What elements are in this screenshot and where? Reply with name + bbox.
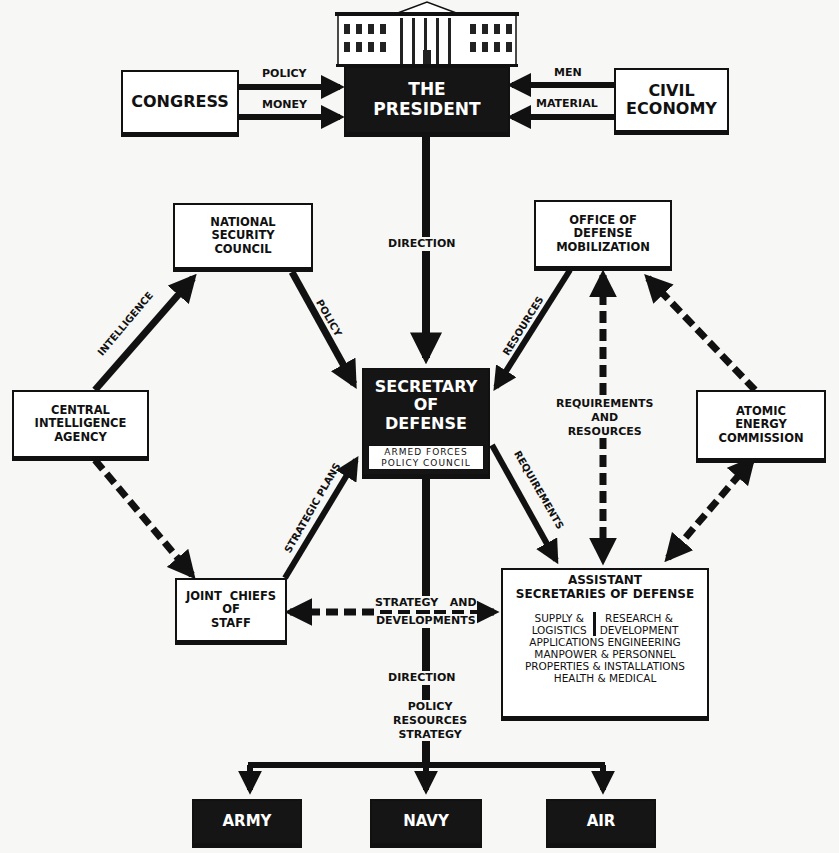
policy-nsc-arrow	[292, 272, 354, 384]
asd-left-col: SUPPLY & LOGISTICS	[532, 612, 596, 636]
asd-box: ASSISTANT SECRETARIES OF DEFENSE SUPPLY …	[501, 568, 709, 718]
prs-line-2: RESOURCES	[393, 714, 467, 728]
cia-jcs-arrow	[95, 460, 192, 575]
afpc-line-2: POLICY COUNCIL	[369, 458, 483, 468]
jcs-line-2: OF	[222, 603, 240, 616]
odm-line-3: MOBILIZATION	[556, 241, 650, 254]
aec-asd-arrow	[668, 460, 752, 558]
secdef-line-3: DEFENSE	[385, 415, 467, 433]
material-label: MATERIAL	[536, 97, 598, 111]
nsc-line-3: COUNCIL	[214, 243, 271, 256]
strategic-plans-arrow	[285, 460, 356, 578]
req-and-res-line-2: AND	[556, 411, 653, 425]
req-and-res-line-1: REQUIREMENTS	[556, 397, 653, 411]
asd-row-2: MANPOWER & PERSONNEL	[534, 648, 675, 660]
congress-box: CONGRESS	[121, 70, 239, 134]
men-label: MEN	[554, 66, 582, 80]
req-and-res-line-3: RESOURCES	[556, 425, 653, 439]
jcs-box: JOINT CHIEFS OF STAFF	[175, 578, 287, 642]
civil-economy-box: CIVIL ECONOMY	[614, 68, 729, 132]
cia-line-3: AGENCY	[54, 431, 107, 444]
req-and-res-label: REQUIREMENTS AND RESOURCES	[556, 397, 653, 438]
asd-left-2: LOGISTICS	[532, 624, 587, 636]
navy-box: NAVY	[370, 799, 482, 845]
president-box: THE PRESIDENT	[344, 66, 510, 134]
cia-box: CENTRAL INTELLIGENCE AGENCY	[12, 390, 149, 458]
asd-row-4: HEALTH & MEDICAL	[554, 672, 657, 684]
asd-right-col: RESEARCH & DEVELOPMENT	[596, 612, 679, 636]
asd-title-1: ASSISTANT	[568, 574, 642, 588]
direction-top-label: DIRECTION	[388, 237, 455, 251]
president-line-2: PRESIDENT	[373, 100, 480, 120]
civil-economy-line-2: ECONOMY	[626, 100, 717, 118]
asd-right-2: DEVELOPMENT	[600, 624, 679, 636]
jcs-line-3: STAFF	[211, 617, 251, 630]
odm-box: OFFICE OF DEFENSE MOBILIZATION	[534, 200, 672, 268]
afpc-line-1: ARMED FORCES	[369, 447, 483, 457]
asd-row-1: APPLICATIONS ENGINEERING	[529, 636, 680, 648]
asd-row-3: PROPERTIES & INSTALLATIONS	[525, 660, 685, 672]
aec-odm-arrow	[648, 278, 755, 390]
white-house-icon	[335, 2, 519, 67]
aec-box: ATOMIC ENERGY COMMISSION	[696, 390, 826, 460]
nsc-line-2: SECURITY	[211, 229, 274, 242]
army-box: ARMY	[192, 799, 302, 845]
policy-label: POLICY	[262, 67, 307, 81]
resources-arrow	[496, 270, 570, 387]
strategy-dev-label: STRATEGY AND DEVELOPMENTS	[375, 596, 477, 628]
aec-line-3: COMMISSION	[718, 432, 803, 445]
army-label: ARMY	[223, 813, 272, 830]
asd-columns: SUPPLY & LOGISTICS RESEARCH & DEVELOPMEN…	[532, 612, 679, 636]
congress-label: CONGRESS	[131, 93, 228, 111]
navy-label: NAVY	[403, 813, 449, 830]
civil-economy-line-1: CIVIL	[648, 82, 694, 100]
president-line-1: THE	[408, 80, 445, 100]
prs-line-3: STRATEGY	[393, 728, 467, 742]
policy-res-strat-label: POLICY RESOURCES STRATEGY	[393, 700, 467, 741]
afpc-box: ARMED FORCES POLICY COUNCIL	[368, 445, 484, 470]
asd-title-2: SECRETARIES OF DEFENSE	[516, 588, 694, 602]
strategy-dev-line-1: STRATEGY AND	[375, 596, 477, 610]
asd-left-1: SUPPLY &	[532, 612, 587, 624]
cia-line-2: INTELLIGENCE	[35, 417, 127, 430]
secdef-line-2: OF	[414, 396, 439, 414]
money-label: MONEY	[262, 98, 307, 112]
strategy-dev-line-2: DEVELOPMENTS	[375, 614, 477, 628]
direction-bottom-label: DIRECTION	[388, 671, 455, 685]
air-label: AIR	[587, 813, 616, 830]
air-box: AIR	[546, 799, 656, 845]
odm-line-2: DEFENSE	[574, 227, 633, 240]
secdef-line-1: SECRETARY	[375, 378, 478, 396]
secdef-box: SECRETARY OF DEFENSE ARMED FORCES POLICY…	[362, 368, 490, 476]
aec-line-2: ENERGY	[735, 418, 787, 431]
nsc-box: NATIONAL SECURITY COUNCIL	[173, 203, 313, 269]
prs-line-1: POLICY	[393, 700, 467, 714]
asd-right-1: RESEARCH &	[600, 612, 679, 624]
